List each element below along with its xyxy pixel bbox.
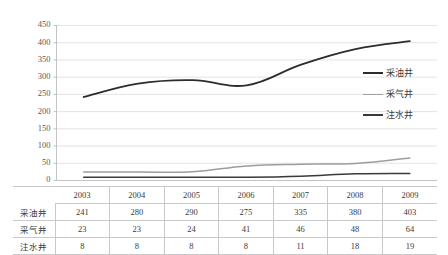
y-axis-tick-label: 50 (42, 157, 51, 167)
table-cell: 275 (219, 204, 274, 221)
table-cell: 8 (219, 238, 274, 255)
table-column-header: 2006 (219, 187, 274, 204)
y-axis-ticks (54, 26, 57, 181)
table-cell: 19 (382, 238, 437, 255)
table-cell: 403 (382, 204, 437, 221)
legend-item[interactable]: 注水井 (363, 106, 441, 124)
table-column-header: 2003 (55, 187, 110, 204)
table-cell: 280 (110, 204, 165, 221)
table-row: 采气井23232441464864 (13, 221, 437, 238)
y-axis-tick-label: 400 (38, 37, 51, 47)
chart-page: 450400350300250200150100500 采油井 采气井 注水井 (0, 0, 448, 255)
data-series (84, 41, 410, 177)
y-axis-tick-label: 100 (38, 140, 51, 150)
table-cell: 46 (273, 221, 328, 238)
table-cell: 380 (328, 204, 383, 221)
table-cell: 8 (55, 238, 110, 255)
table-column-header: 2008 (328, 187, 383, 204)
table-row: 注水井8888111819 (13, 238, 437, 255)
table-column-header: 2007 (273, 187, 328, 204)
legend-item-label: 采油井 (386, 69, 413, 78)
table-cell: 335 (273, 204, 328, 221)
table-row-label: 采油井 (13, 204, 55, 221)
table-row-label: 注水井 (13, 238, 55, 255)
table-cell: 23 (55, 221, 110, 238)
y-axis-tick-label: 350 (38, 54, 51, 64)
y-axis-tick-label: 150 (38, 123, 51, 133)
table-row-label: 采气井 (13, 221, 55, 238)
legend-swatch-icon (363, 114, 383, 116)
table-cell: 64 (382, 221, 437, 238)
table-cell: 241 (55, 204, 110, 221)
legend-item-label: 采气井 (386, 90, 413, 99)
y-axis-tick-label: 0 (46, 174, 50, 184)
table-cell: 11 (273, 238, 328, 255)
table-column-header: 2004 (110, 187, 165, 204)
table-row: 采油井241280290275335380403 (13, 204, 437, 221)
table-cell: 290 (164, 204, 219, 221)
table-cell: 8 (110, 238, 165, 255)
table-header-row: 2003200420052006200720082009 (13, 187, 437, 204)
legend-swatch-icon (363, 72, 383, 74)
table-cell: 23 (110, 221, 165, 238)
table-cell: 41 (219, 221, 274, 238)
legend-swatch-icon (363, 94, 383, 95)
y-axis-tick-label: 450 (38, 19, 51, 29)
series-line (84, 41, 410, 97)
table-column-header: 2005 (164, 187, 219, 204)
legend-item[interactable]: 采气井 (363, 85, 441, 103)
y-axis-tick-label: 200 (38, 106, 51, 116)
chart-data-table: 2003200420052006200720082009 采油井24128029… (13, 186, 437, 255)
chart-legend: 采油井 采气井 注水井 (363, 64, 441, 127)
table-column-header: 2009 (382, 187, 437, 204)
legend-item[interactable]: 采油井 (363, 64, 441, 82)
line-chart: 450400350300250200150100500 采油井 采气井 注水井 (0, 0, 448, 186)
table-body: 采油井241280290275335380403采气井2323244146486… (13, 204, 437, 255)
y-axis-tick-label: 300 (38, 71, 51, 81)
table-cell: 48 (328, 221, 383, 238)
table-cell: 18 (328, 238, 383, 255)
table-cell: 24 (164, 221, 219, 238)
table-cell: 8 (164, 238, 219, 255)
legend-item-label: 注水井 (386, 111, 413, 120)
y-axis-labels: 450400350300250200150100500 (38, 19, 51, 184)
series-line (84, 158, 410, 172)
table-corner-cell (13, 187, 55, 204)
series-line (84, 173, 410, 177)
y-axis-tick-label: 250 (38, 88, 51, 98)
